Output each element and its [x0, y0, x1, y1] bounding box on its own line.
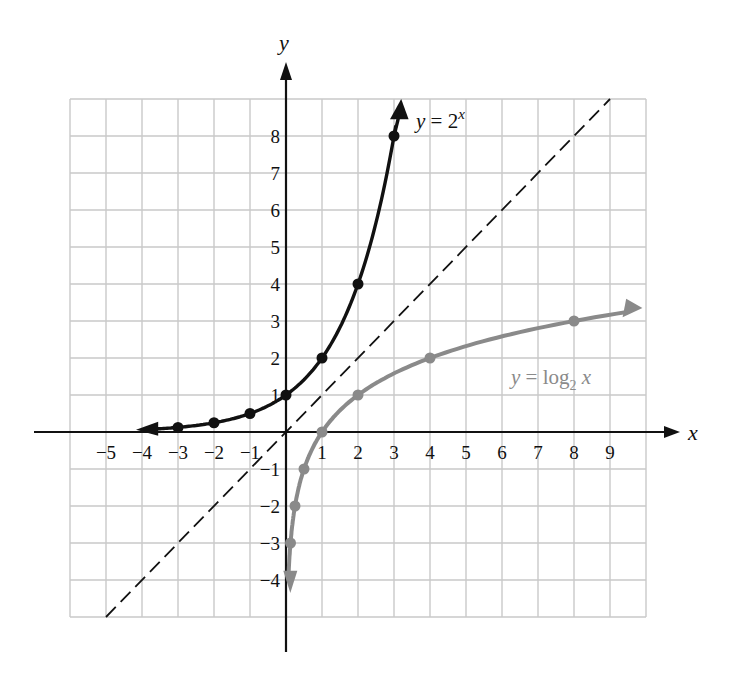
exp-label-y: y: [414, 109, 426, 133]
x-tick-label: 7: [533, 442, 543, 463]
log-data-point: [285, 538, 296, 549]
x-tick-label: −4: [132, 442, 153, 463]
x-tick-label: 9: [605, 442, 615, 463]
x-tick-label: 1: [317, 442, 327, 463]
exp-label-eq: = 2: [425, 109, 458, 133]
log-data-point: [425, 353, 436, 364]
exp-label-exponent: x: [457, 106, 465, 122]
y-tick-label: 3: [271, 311, 281, 332]
y-axis-label: y: [277, 30, 289, 55]
y-tick-label: −4: [260, 570, 281, 591]
log-label-eq: = log: [520, 365, 570, 389]
x-tick-label: −1: [240, 442, 260, 463]
log-data-point: [290, 501, 301, 512]
exp-left-arrow-icon: [136, 422, 158, 436]
x-tick-label: −2: [204, 442, 224, 463]
exp-data-point: [353, 279, 364, 290]
x-tick-label: −5: [96, 442, 116, 463]
y-tick-label: −3: [260, 533, 280, 554]
log-right-arrow-icon: [623, 299, 643, 318]
log-data-point: [299, 464, 310, 475]
y-tick-label: 4: [271, 274, 281, 295]
exp-data-point: [173, 422, 184, 433]
x-tick-label: 5: [461, 442, 471, 463]
x-axis-label: x: [687, 420, 698, 445]
exp-data-point: [281, 390, 292, 401]
y-tick-label: 8: [271, 126, 281, 147]
log-label-x: x: [577, 365, 592, 389]
x-tick-label: 8: [569, 442, 579, 463]
y-axis-arrow-icon: [280, 62, 292, 80]
log-data-point: [317, 427, 328, 438]
y-tick-label: 7: [271, 163, 281, 184]
axes: [34, 62, 680, 652]
x-tick-label: 4: [425, 442, 435, 463]
exp-data-point: [389, 131, 400, 142]
exp-curve-label: y = 2x: [414, 106, 465, 133]
log-curve-label: y = log2 x: [509, 365, 592, 393]
exp-data-point: [317, 353, 328, 364]
exp-data-point: [245, 408, 256, 419]
y-tick-label: −1: [260, 459, 280, 480]
x-tick-label: 2: [353, 442, 363, 463]
log-data-point: [569, 316, 580, 327]
log-label-base: 2: [570, 378, 577, 393]
y-tick-label: 6: [271, 200, 281, 221]
y-tick-label: −2: [260, 496, 280, 517]
y-tick-label: 2: [271, 348, 281, 369]
x-tick-label: 6: [497, 442, 507, 463]
exp-data-point: [209, 417, 220, 428]
x-axis-arrow-icon: [664, 426, 680, 438]
x-tick-label: 3: [389, 442, 399, 463]
x-tick-label: −3: [168, 442, 188, 463]
log-data-point: [353, 390, 364, 401]
log-label-y: y: [509, 365, 521, 389]
function-graph: −5−4−3−2−1123456789−4−3−2−112345678 x y …: [0, 0, 732, 680]
y-tick-label: 5: [271, 237, 281, 258]
